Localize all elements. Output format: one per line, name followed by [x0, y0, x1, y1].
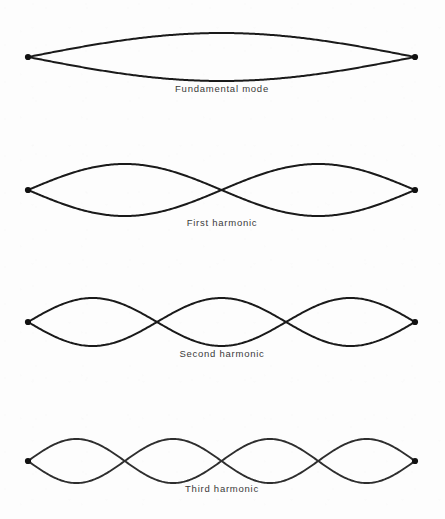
wave-mode-1	[25, 33, 418, 81]
fixed-end-dot-left	[25, 319, 31, 325]
wave-mode-3	[25, 298, 418, 346]
fixed-end-dot-right	[412, 458, 418, 464]
standing-wave-figure: Fundamental modeFirst harmonicSecond har…	[0, 0, 445, 519]
wave-envelope-lower	[28, 298, 415, 346]
mode-label-3: Second harmonic	[179, 348, 264, 359]
fixed-end-dot-left	[25, 187, 31, 193]
wave-modes-group	[25, 33, 418, 483]
fixed-end-dot-left	[25, 458, 31, 464]
wave-mode-2	[25, 164, 418, 216]
wave-envelope-lower	[28, 439, 415, 483]
wave-mode-4	[25, 439, 418, 483]
fixed-end-dot-right	[412, 187, 418, 193]
mode-label-1: Fundamental mode	[175, 83, 269, 94]
wave-labels-group: Fundamental modeFirst harmonicSecond har…	[175, 83, 269, 494]
fixed-end-dot-right	[412, 54, 418, 60]
wave-envelope-upper	[28, 57, 415, 81]
wave-envelope-lower	[28, 33, 415, 57]
wave-envelope-lower	[28, 164, 415, 216]
fixed-end-dot-left	[25, 54, 31, 60]
wave-envelope-upper	[28, 298, 415, 346]
mode-label-2: First harmonic	[187, 217, 258, 228]
fixed-end-dot-right	[412, 319, 418, 325]
mode-label-4: Third harmonic	[185, 483, 259, 494]
